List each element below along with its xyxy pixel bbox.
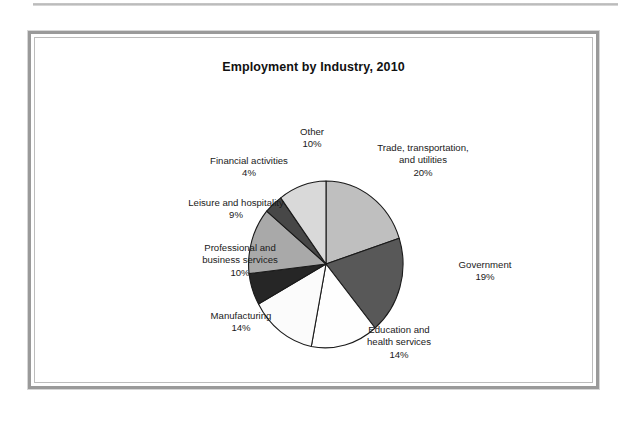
pie-label-manufacturing: Manufacturing 14% — [155, 310, 327, 335]
pie-label-government-name: Government — [459, 259, 512, 270]
page-rule — [33, 3, 618, 6]
pie-label-education-line2: health services — [335, 336, 463, 348]
pie-label-education-percent: 14% — [335, 349, 463, 361]
pie-label-other-name: Other — [300, 126, 324, 137]
pie-label-professional-and-business-services: Professional and business services 10% — [153, 242, 327, 279]
pie-label-professional-line1: Professional and — [204, 242, 275, 253]
pie-label-professional-line2: business services — [153, 254, 327, 266]
pie-chart-plot-area: Other 10% Trade, transportation, and uti… — [35, 38, 592, 382]
pie-label-financial-name: Financial activities — [210, 155, 288, 166]
pie-label-leisure-and-hospitality: Leisure and hospitality 9% — [145, 197, 327, 222]
pie-label-leisure-name: Leisure and hospitality — [188, 197, 283, 208]
pie-label-education-and-health-services: Education and health services 14% — [335, 324, 463, 361]
pie-label-trade-line1: Trade, transportation, — [377, 142, 468, 153]
figure-frame: Employment by Industry, 2010 — [28, 31, 599, 389]
pie-label-financial-activities: Financial activities 4% — [171, 155, 327, 180]
pie-label-government: Government 19% — [433, 259, 537, 284]
pie-label-other: Other 10% — [264, 126, 360, 151]
pie-label-leisure-percent: 9% — [145, 209, 327, 221]
pie-label-education-line1: Education and — [368, 324, 429, 335]
pie-label-manufacturing-percent: 14% — [155, 322, 327, 334]
pie-label-trade-line2: and utilities — [355, 154, 491, 166]
figure-inner-border: Employment by Industry, 2010 — [34, 37, 593, 383]
pie-label-government-percent: 19% — [433, 271, 537, 283]
pie-label-professional-percent: 10% — [153, 267, 327, 279]
pie-label-financial-percent: 4% — [171, 167, 327, 179]
pie-label-other-percent: 10% — [264, 138, 360, 150]
pie-label-trade-percent: 20% — [355, 167, 491, 179]
pie-label-manufacturing-name: Manufacturing — [211, 310, 272, 321]
pie-label-trade-transportation-and-utilities: Trade, transportation, and utilities 20% — [355, 142, 491, 179]
